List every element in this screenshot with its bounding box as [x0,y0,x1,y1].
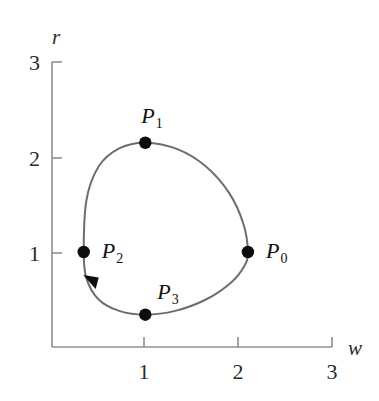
point-label-subscript-p3: 3 [172,292,179,307]
point-label-subscript-p2: 2 [116,251,123,266]
y-tick-label-3: 3 [29,50,40,75]
y-axis-label: r [52,25,61,49]
marker-dot-p1 [139,137,151,149]
x-tick-label-2: 2 [233,359,244,384]
phase-plane-plot: 3 2 1 r 1 2 3 w P0P1P2P3 [0,0,379,401]
point-label-subscript-p0: 0 [280,251,287,266]
marker-dot-p0 [242,246,254,258]
y-tick-label-1: 1 [29,241,40,266]
x-axis-label: w [348,336,362,360]
point-label-subscript-p1: 1 [156,116,163,131]
plot-background [0,0,379,401]
x-tick-label-1: 1 [139,359,150,384]
y-tick-label-2: 2 [29,146,40,171]
marker-dot-p3 [139,309,151,321]
marker-dot-p2 [78,246,90,258]
x-tick-label-3: 3 [327,359,338,384]
